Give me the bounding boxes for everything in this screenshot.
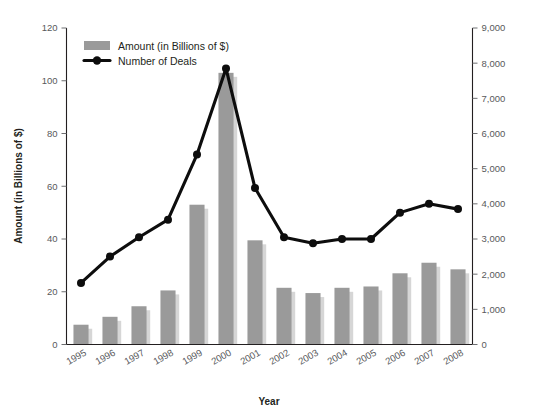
right-tick-label-9,000: 9,000 [482, 22, 506, 33]
deals-point-2004 [338, 235, 346, 243]
right-tick-label-2,000: 2,000 [482, 269, 506, 280]
bar-2002 [276, 288, 291, 345]
left-tick-label-40: 40 [47, 233, 58, 244]
deals-point-2007 [425, 200, 433, 208]
left-tick-label-60: 60 [47, 181, 58, 192]
deals-point-2003 [309, 239, 317, 247]
left-tick-label-80: 80 [47, 128, 58, 139]
legend-swatch-amount [84, 41, 110, 50]
bar-2001 [247, 240, 262, 344]
bar-2008 [450, 269, 465, 344]
right-tick-label-5,000: 5,000 [482, 163, 506, 174]
chart-svg: 020406080100120 Amount (in Billions of $… [0, 0, 539, 412]
deals-point-2005 [367, 235, 375, 243]
deals-point-2002 [280, 233, 288, 241]
deals-point-2008 [454, 205, 462, 213]
deals-point-2000 [222, 64, 230, 72]
bar-1995 [73, 325, 88, 345]
chart-container: 020406080100120 Amount (in Billions of $… [0, 0, 539, 412]
deals-point-2006 [396, 209, 404, 217]
legend-dot-deals [93, 56, 101, 64]
left-tick-label-120: 120 [42, 22, 58, 33]
bar-2004 [334, 288, 349, 345]
deals-point-2001 [251, 184, 259, 192]
bar-2006 [392, 273, 407, 344]
deals-point-1995 [77, 279, 85, 287]
right-tick-label-0: 0 [482, 339, 487, 350]
left-axis-title: Amount (in Billions of $) [13, 128, 24, 244]
left-tick-label-20: 20 [47, 286, 58, 297]
bar-1999 [189, 205, 204, 345]
bar-2007 [421, 263, 436, 345]
left-tick-label-100: 100 [42, 75, 58, 86]
bar-1998 [160, 290, 175, 344]
right-tick-label-6,000: 6,000 [482, 128, 506, 139]
deals-point-1999 [193, 151, 201, 159]
bar-2003 [305, 293, 320, 344]
legend-label-amount: Amount (in Billions of $) [118, 40, 229, 52]
right-tick-label-4,000: 4,000 [482, 198, 506, 209]
deals-point-1998 [164, 216, 172, 224]
bar-1996 [102, 317, 117, 345]
left-tick-label-0: 0 [52, 339, 57, 350]
right-tick-label-3,000: 3,000 [482, 233, 506, 244]
bottom-axis-title: Year [258, 396, 279, 407]
bar-2005 [363, 286, 378, 344]
bar-2000 [218, 73, 233, 345]
bar-1997 [131, 306, 146, 344]
legend-label-deals: Number of Deals [118, 55, 197, 67]
right-tick-label-7,000: 7,000 [482, 93, 506, 104]
deals-point-1996 [106, 253, 114, 261]
right-tick-label-8,000: 8,000 [482, 58, 506, 69]
deals-point-1997 [135, 233, 143, 241]
right-tick-label-1,000: 1,000 [482, 304, 506, 315]
